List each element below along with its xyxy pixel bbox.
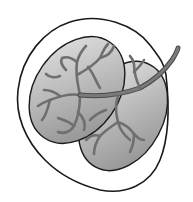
seed-illustration xyxy=(0,0,193,202)
